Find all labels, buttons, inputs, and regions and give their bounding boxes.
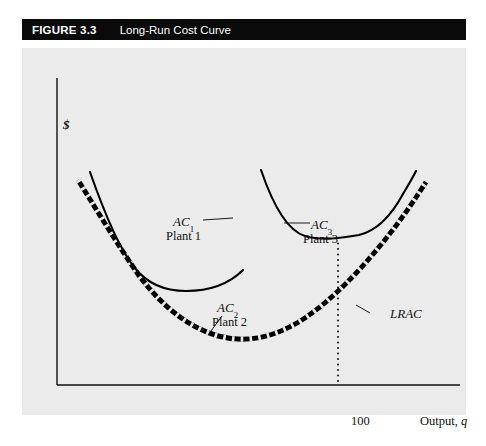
lrac-curve-base: [78, 180, 426, 339]
x-axis-label-variable: q: [461, 414, 467, 428]
cost-curve-chart: [22, 48, 466, 415]
figure-number: FIGURE 3.3: [32, 24, 97, 36]
ac1-plant-label: Plant 1: [166, 229, 201, 244]
x-axis-tick-100: 100: [351, 414, 370, 429]
ac1-label-name: AC: [173, 214, 190, 229]
x-axis-label-text: Output,: [420, 414, 461, 428]
chart-plot-panel: $ 100 Output, q AC1 Plant 1 AC2 Plant 2 …: [22, 48, 466, 415]
ac3-label-name: AC: [311, 217, 328, 232]
lrac-leader-line: [356, 305, 370, 313]
ac3-plant-label: Plant 3: [303, 232, 338, 247]
x-axis-label: Output, q: [420, 414, 467, 429]
lrac-label: LRAC: [390, 306, 422, 322]
y-axis-label: $: [63, 117, 70, 133]
ac1-leader-line: [203, 218, 233, 220]
ac2-label-name: AC: [217, 300, 234, 315]
figure-title: Long-Run Cost Curve: [120, 24, 231, 36]
figure-header-bar: FIGURE 3.3 Long-Run Cost Curve: [22, 19, 466, 40]
ac2-plant-label: Plant 2: [212, 315, 247, 330]
